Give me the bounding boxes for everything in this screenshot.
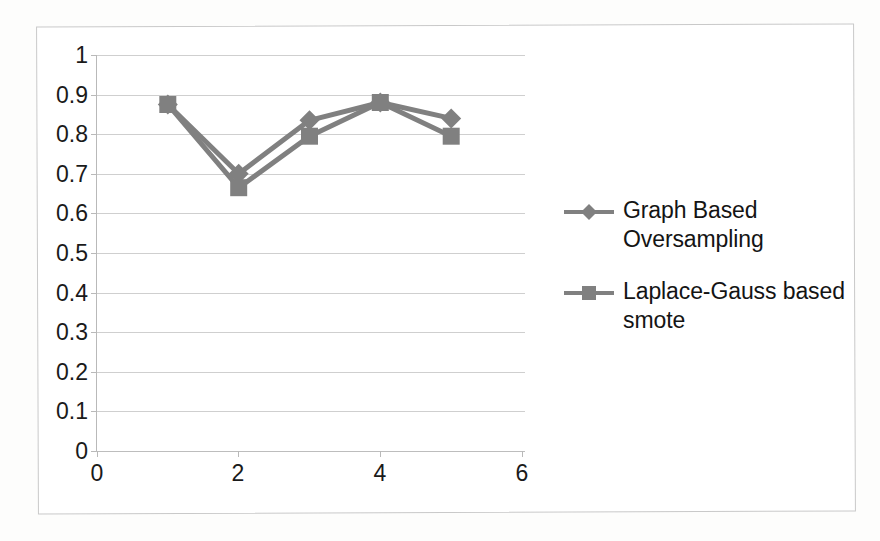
legend-label-1: Laplace-Gauss based smote [623, 277, 853, 336]
legend-label-0: Graph Based Oversampling [623, 196, 853, 255]
legend-entry-graph-based-oversampling: Graph Based Oversampling [563, 196, 853, 255]
data-point-1-1 [230, 179, 247, 196]
data-point-1-4 [443, 128, 460, 145]
chart-legend: Graph Based Oversampling Laplace-Gauss b… [563, 196, 853, 358]
diamond-marker-icon [563, 202, 615, 222]
data-point-1-0 [159, 96, 176, 113]
chart-figure: 1 0.9 0.8 0.7 0.6 0.5 0.4 0.3 0.2 0.1 0 … [0, 0, 880, 541]
data-point-1-3 [372, 94, 389, 111]
data-point-1-2 [301, 128, 318, 145]
square-marker-icon [563, 283, 615, 303]
legend-entry-laplace-gauss-based-smote: Laplace-Gauss based smote [563, 277, 853, 336]
data-point-0-4 [441, 108, 461, 128]
